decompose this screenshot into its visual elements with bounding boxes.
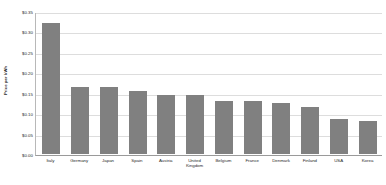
bar[interactable] xyxy=(129,91,147,154)
bar[interactable] xyxy=(244,101,262,154)
bar-slot xyxy=(238,13,267,154)
x-axis-tick-label: Japan xyxy=(94,158,123,184)
bar-slot xyxy=(353,13,382,154)
bar-slot xyxy=(181,13,210,154)
x-axis-tick-label: Denmark xyxy=(267,158,296,184)
y-axis-tick-label: $0.05 xyxy=(9,133,33,137)
plot-area xyxy=(35,13,382,156)
y-axis-tick-label: $0.25 xyxy=(9,52,33,56)
y-axis-tick-label: $0.10 xyxy=(9,113,33,117)
bar[interactable] xyxy=(215,101,233,154)
y-axis-tick-label: $0.15 xyxy=(9,93,33,97)
x-axis-tick-label: Italy xyxy=(36,158,65,184)
bar[interactable] xyxy=(186,95,204,154)
y-axis-tick-label: $0.35 xyxy=(9,11,33,15)
y-axis-tick-label: $0.20 xyxy=(9,72,33,76)
bar[interactable] xyxy=(100,87,118,154)
x-axis-tick-label: France xyxy=(238,158,267,184)
bar[interactable] xyxy=(42,23,60,154)
x-axis-tick-label: Korea xyxy=(353,158,382,184)
x-axis-tick-label: Germany xyxy=(65,158,94,184)
y-axis-tick-label: $0.30 xyxy=(9,31,33,35)
bar-series xyxy=(37,13,382,154)
x-axis-tick-label: Spain xyxy=(122,158,151,184)
bar-slot xyxy=(37,13,66,154)
x-axis-tick-label: United Kingdom xyxy=(180,158,209,184)
bar-slot xyxy=(267,13,296,154)
bar-slot xyxy=(123,13,152,154)
bar-slot xyxy=(66,13,95,154)
bar[interactable] xyxy=(359,121,377,154)
y-axis-tick-labels: $0.00$0.05$0.10$0.15$0.20$0.25$0.30$0.35 xyxy=(9,13,33,156)
bar[interactable] xyxy=(157,95,175,154)
bar-chart: Price per kWh $0.00$0.05$0.10$0.15$0.20$… xyxy=(0,0,386,185)
bar-slot xyxy=(95,13,124,154)
bar-slot xyxy=(296,13,325,154)
y-axis-title-label: Price per kWh xyxy=(4,65,9,94)
bar[interactable] xyxy=(330,119,348,154)
bar-slot xyxy=(325,13,354,154)
x-axis-tick-label: Belgium xyxy=(209,158,238,184)
bar[interactable] xyxy=(272,103,290,154)
x-axis-tick-label: USA xyxy=(324,158,353,184)
bar[interactable] xyxy=(71,87,89,154)
bar[interactable] xyxy=(301,107,319,154)
bar-slot xyxy=(210,13,239,154)
y-axis-tick-label: $0.00 xyxy=(9,154,33,158)
x-axis-tick-labels: ItalyGermanyJapanSpainAustriaUnited King… xyxy=(36,158,382,184)
x-axis-tick-label: Finland xyxy=(295,158,324,184)
x-axis-tick-label: Austria xyxy=(151,158,180,184)
bar-slot xyxy=(152,13,181,154)
